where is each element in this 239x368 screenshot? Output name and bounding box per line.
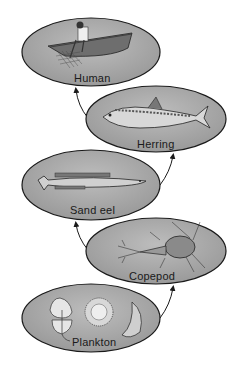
arrow-plankton-to-copepod [160, 288, 173, 318]
label-copepod: Copepod [129, 270, 175, 282]
label-herring: Herring [137, 138, 174, 150]
diagram-canvas [0, 0, 239, 368]
food-chain-diagram: Human Herring Sand eel Copepod Plankton [0, 0, 239, 368]
label-sand-eel: Sand eel [70, 204, 115, 216]
label-plankton: Plankton [72, 336, 116, 348]
arrow-sand-eel-to-herring [160, 156, 173, 185]
label-human: Human [74, 72, 110, 84]
